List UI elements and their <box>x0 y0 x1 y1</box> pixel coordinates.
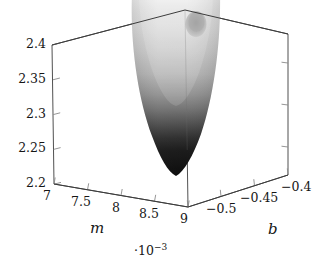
x-axis-label: m <box>90 221 104 236</box>
b-tick-label-minus-0-5: −0.5 <box>206 203 236 216</box>
m-tick-label-7: 7 <box>43 190 51 203</box>
plot-canvas <box>0 0 328 268</box>
z-tick-label-2-35: 2.35 <box>0 73 46 86</box>
x-axis-multiplier-exponent: −3 <box>154 242 167 252</box>
x-axis-multiplier-base: ·10 <box>134 243 154 258</box>
z-tick-label-2-25: 2.25 <box>0 142 46 155</box>
z-tick-label-2-2: 2.2 <box>6 177 46 190</box>
m-tick-label-7-5: 7.5 <box>71 196 91 209</box>
b-tick-label-minus-0-4: −0.4 <box>281 181 311 194</box>
m-tick-label-8-5: 8.5 <box>139 208 159 221</box>
x-axis-multiplier: ·10−3 <box>134 243 167 258</box>
b-tick-label-minus-0-45: −0.45 <box>240 192 278 205</box>
y-axis-label: b <box>268 222 278 237</box>
m-tick-label-9: 9 <box>180 213 188 226</box>
z-tick-label-2-3: 2.3 <box>6 108 46 121</box>
surface-plot-figure: 2.4 2.35 2.3 2.25 2.2 7 7.5 8 8.5 9 −0.5… <box>0 0 328 268</box>
z-tick-label-2-4: 2.4 <box>6 38 46 51</box>
m-tick-label-8: 8 <box>112 202 120 215</box>
